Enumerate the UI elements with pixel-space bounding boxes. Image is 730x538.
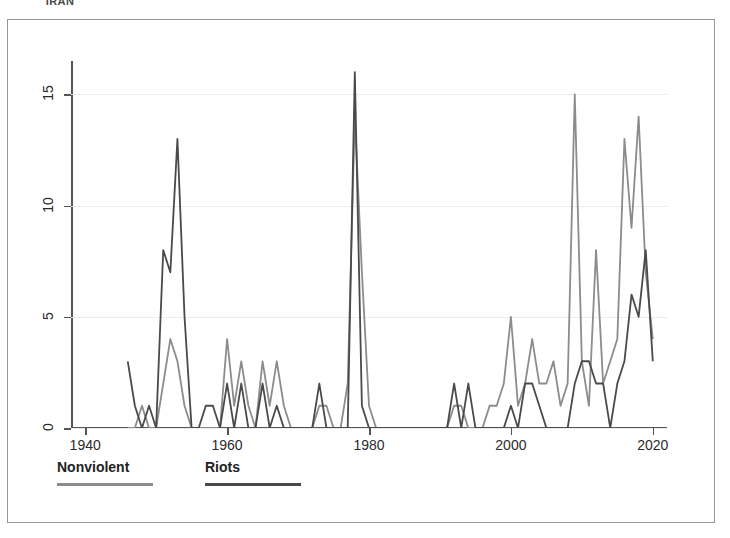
x-tick-label: 2000 <box>481 437 541 453</box>
page-title: IRAN <box>0 0 120 5</box>
y-tick-mark <box>64 428 71 430</box>
chart-legend: NonviolentRiots <box>57 459 357 504</box>
y-tick-mark <box>64 94 71 96</box>
legend-label: Riots <box>205 459 240 475</box>
legend-entry: Nonviolent <box>57 459 129 475</box>
x-tick-mark <box>653 428 655 435</box>
x-tick-mark <box>85 428 87 435</box>
x-tick-mark <box>369 428 371 435</box>
legend-swatch <box>57 483 153 486</box>
chart-lines <box>71 61 667 428</box>
y-tick-label: 15 <box>40 80 56 106</box>
x-tick-label: 2020 <box>623 437 683 453</box>
y-tick-mark <box>64 206 71 208</box>
x-tick-mark <box>227 428 229 435</box>
x-tick-label: 1940 <box>55 437 115 453</box>
y-tick-label: 0 <box>40 414 56 440</box>
legend-swatch <box>205 483 301 486</box>
plot-area: 051015 19401960198020002020 <box>71 61 667 428</box>
y-tick-label: 10 <box>40 192 56 218</box>
x-tick-mark <box>511 428 513 435</box>
figure-frame: 051015 19401960198020002020 <box>7 19 715 523</box>
legend-entry: Riots <box>205 459 240 475</box>
legend-label: Nonviolent <box>57 459 129 475</box>
x-tick-label: 1980 <box>339 437 399 453</box>
series-line-nonviolent <box>128 94 653 428</box>
y-tick-mark <box>64 317 71 319</box>
y-tick-label: 5 <box>40 303 56 329</box>
x-tick-label: 1960 <box>197 437 257 453</box>
